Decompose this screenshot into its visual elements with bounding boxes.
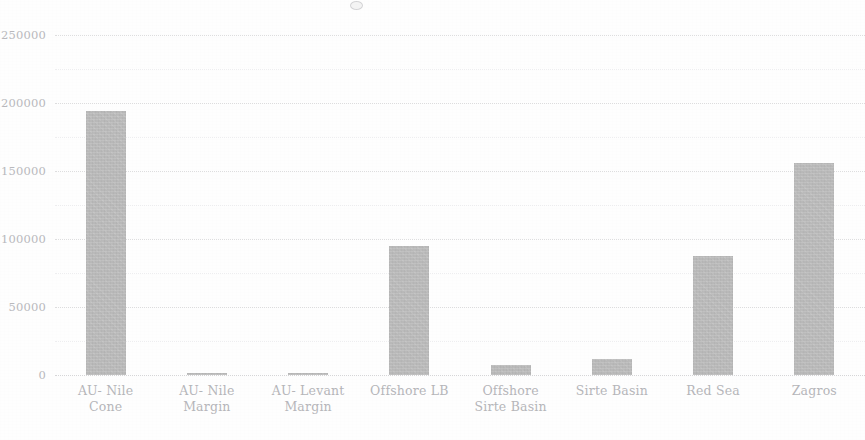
x-tick-label-line: Offshore <box>460 383 561 399</box>
bar[interactable] <box>592 359 632 375</box>
bar-slot <box>561 35 662 375</box>
bar[interactable] <box>288 373 328 375</box>
x-tick-label: AU- LevantMargin <box>258 383 359 415</box>
scan-artifact-mark <box>350 1 363 10</box>
bar-slot <box>460 35 561 375</box>
bar[interactable] <box>187 373 227 375</box>
bar-slot <box>764 35 865 375</box>
bar[interactable] <box>389 246 429 375</box>
x-tick-label-line: Sirte Basin <box>561 383 662 399</box>
bar[interactable] <box>693 256 733 375</box>
bar-slot <box>55 35 156 375</box>
x-tick-label: OffshoreSirte Basin <box>460 383 561 415</box>
chart-title-area <box>0 0 865 26</box>
x-tick-label-line: Margin <box>156 399 257 415</box>
bars-layer <box>55 35 865 375</box>
x-tick-label-line: Margin <box>258 399 359 415</box>
x-tick-label-line: AU- Nile <box>156 383 257 399</box>
x-tick-label: AU- NileMargin <box>156 383 257 415</box>
x-tick-label: Zagros <box>764 383 865 399</box>
x-tick-label: AU- NileCone <box>55 383 156 415</box>
y-tick-label: 250000 <box>1 28 46 42</box>
bar[interactable] <box>86 111 126 375</box>
bar-slot <box>359 35 460 375</box>
x-tick-label-line: Red Sea <box>663 383 764 399</box>
axis-baseline <box>55 375 865 376</box>
x-axis: AU- NileConeAU- NileMarginAU- LevantMarg… <box>55 383 865 440</box>
y-tick-label: 0 <box>38 368 46 382</box>
y-tick-label: 200000 <box>1 96 46 110</box>
bar-slot <box>258 35 359 375</box>
y-tick-label: 150000 <box>1 164 46 178</box>
x-tick-label: Sirte Basin <box>561 383 662 399</box>
x-tick-label-line: Cone <box>55 399 156 415</box>
y-tick-label: 50000 <box>8 300 46 314</box>
bar[interactable] <box>794 163 834 375</box>
x-tick-label-line: Zagros <box>764 383 865 399</box>
bar-slot <box>663 35 764 375</box>
x-tick-label-line: AU- Levant <box>258 383 359 399</box>
bar-slot <box>156 35 257 375</box>
x-tick-label: Red Sea <box>663 383 764 399</box>
bar[interactable] <box>491 365 531 375</box>
x-tick-label-line: Offshore LB <box>359 383 460 399</box>
x-tick-label-line: Sirte Basin <box>460 399 561 415</box>
x-tick-label-line: AU- Nile <box>55 383 156 399</box>
x-tick-label: Offshore LB <box>359 383 460 399</box>
y-axis: 050000100000150000200000250000 <box>0 0 55 440</box>
bar-chart-figure: 050000100000150000200000250000 AU- NileC… <box>0 0 865 440</box>
y-tick-label: 100000 <box>1 232 46 246</box>
